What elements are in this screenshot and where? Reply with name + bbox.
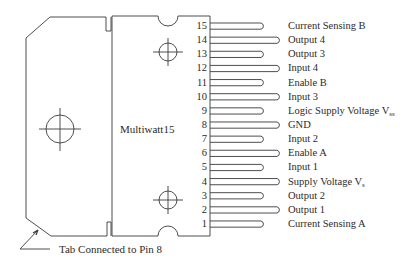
pin-label: Output 1 [288, 204, 325, 216]
pin-lead-9 [210, 108, 263, 114]
pin-lead-3 [210, 193, 263, 199]
pin-number: 10 [195, 91, 207, 103]
pin-label: Current Sensing A [288, 218, 366, 230]
pin-label-subscript: ss [389, 110, 394, 118]
pin-number: 11 [195, 77, 207, 89]
pin-label-text: GND [288, 119, 311, 130]
tab-notch-top [106, 17, 111, 31]
bottom-mounting-hole-icon [153, 186, 183, 214]
pin-label: Supply Voltage Vs [288, 176, 365, 188]
pin-label-text: Current Sensing B [288, 20, 366, 31]
pin-number: 14 [195, 34, 207, 46]
pin-label-text: Enable B [288, 77, 327, 88]
pin-label-subscript: s [362, 181, 365, 189]
pin-number: 5 [195, 161, 207, 173]
pin-number: 2 [195, 204, 207, 216]
pin-lead-1 [210, 221, 263, 227]
pin-label-text: Current Sensing A [288, 218, 366, 229]
pin-lead-2 [210, 207, 279, 213]
pin-label-text: Input 2 [288, 133, 318, 144]
pin-label-text: Input 4 [288, 62, 318, 73]
tab-note-label: Tab Connected to Pin 8 [59, 243, 162, 255]
pin-label-text: Output 4 [288, 34, 325, 45]
pin-label: Output 3 [288, 48, 325, 60]
tab-note-leader-line [20, 230, 50, 249]
pin-label: GND [288, 119, 311, 131]
pin-lead-15 [210, 23, 263, 29]
pin-lead-6 [210, 150, 279, 156]
pin-number: 15 [195, 20, 207, 32]
pin-label-text: Input 1 [288, 161, 318, 172]
pin-number: 13 [195, 48, 207, 60]
pin-number: 12 [195, 62, 207, 74]
pin-label-text: Output 3 [288, 48, 325, 59]
pin-number: 6 [195, 147, 207, 159]
pin-label: Enable A [288, 147, 327, 159]
pin-label: Input 4 [288, 62, 318, 74]
pin-label-text: Logic Supply Voltage V [288, 105, 389, 116]
pin-number: 3 [195, 190, 207, 202]
pin-label: Input 1 [288, 161, 318, 173]
pin-number: 1 [195, 218, 207, 230]
pin-number: 9 [195, 105, 207, 117]
pin-lead-8 [210, 122, 279, 128]
pin-leads [210, 23, 279, 227]
pin-label: Input 2 [288, 133, 318, 145]
pin-number: 4 [195, 176, 207, 188]
top-mounting-hole-icon [153, 38, 183, 66]
pin-number: 8 [195, 119, 207, 131]
pin-lead-4 [210, 179, 279, 185]
pin-label: Logic Supply Voltage Vss [288, 105, 395, 117]
pin-label: Input 3 [288, 91, 318, 103]
pin-lead-14 [210, 37, 279, 43]
pin-label: Current Sensing B [288, 20, 366, 32]
pin-label-text: Supply Voltage V [288, 176, 362, 187]
pin-label: Output 4 [288, 34, 325, 46]
pin-lead-11 [210, 80, 263, 86]
tab-mounting-hole-icon [39, 108, 81, 151]
pin-label-text: Enable A [288, 147, 327, 158]
pin-lead-5 [210, 164, 263, 170]
pin-label-text: Output 1 [288, 204, 325, 215]
pin-lead-10 [210, 94, 279, 100]
pin-label: Output 2 [288, 190, 325, 202]
package-name-label: Multiwatt15 [120, 123, 174, 135]
pin-label: Enable B [288, 77, 327, 89]
heatsink-tab-outline [26, 17, 111, 236]
pin-lead-12 [210, 65, 279, 71]
pin-lead-13 [210, 51, 263, 57]
pin-label-text: Output 2 [288, 190, 325, 201]
pin-label-text: Input 3 [288, 91, 318, 102]
pin-lead-7 [210, 136, 263, 142]
pin-number: 7 [195, 133, 207, 145]
